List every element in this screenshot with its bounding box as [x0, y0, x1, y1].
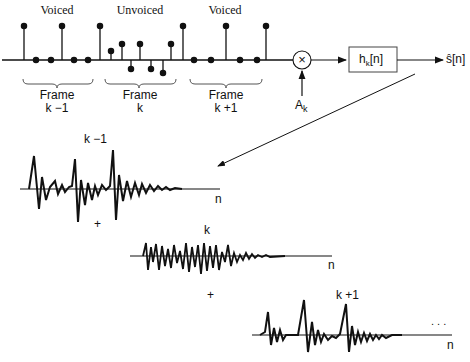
frame-label-k-plus-1: Frame k +1: [209, 89, 244, 115]
segment-label-voiced-left: Voiced: [40, 4, 73, 17]
voiced-impulses-left: [21, 23, 102, 62]
output-label: ŝ[n]: [446, 53, 465, 66]
response-title-k: k: [204, 224, 210, 237]
frame-label-index: k +1: [209, 102, 244, 115]
continuation-ellipsis: . . .: [431, 315, 446, 328]
axis-label-n: n: [215, 193, 222, 206]
voiced-impulses-right: [180, 23, 268, 62]
frame-label-k-minus-1: Frame k −1: [40, 89, 75, 115]
unvoiced-noise-samples: [108, 41, 173, 75]
frame-label-index: k: [123, 102, 158, 115]
response-waveform-k-plus-1: [260, 300, 402, 352]
segment-label-voiced-right: Voiced: [208, 4, 241, 17]
gain-subscript: k: [303, 104, 308, 114]
response-waveform-k: [143, 243, 285, 274]
response-title-k-minus-1: k −1: [84, 133, 107, 146]
frame-label-k: Frame k: [123, 89, 158, 115]
gain-label: Ak: [295, 99, 308, 116]
response-waveform-k-minus-1: [29, 150, 182, 222]
frame-braces: [23, 79, 262, 88]
pointer-arrow: [218, 74, 415, 166]
filter-label: hk[n]: [359, 53, 383, 70]
plus-sign: +: [207, 289, 214, 302]
axis-label-n: n: [328, 259, 335, 272]
diagram-canvas: [0, 0, 470, 362]
plus-sign: +: [94, 218, 101, 231]
segment-label-unvoiced: Unvoiced: [117, 4, 164, 17]
filter-symbol: h: [359, 52, 366, 66]
multiply-icon: ×: [298, 53, 306, 66]
response-title-k-plus-1: k +1: [336, 289, 359, 302]
filter-argument: [n]: [370, 52, 383, 66]
frame-label-index: k −1: [40, 102, 75, 115]
gain-symbol: A: [295, 98, 303, 112]
axis-label-n: n: [447, 339, 454, 352]
